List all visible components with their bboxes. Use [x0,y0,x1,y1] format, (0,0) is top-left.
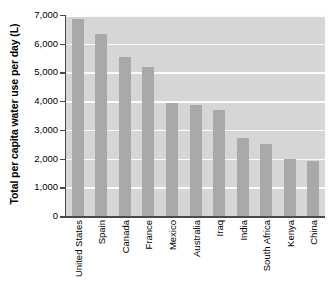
x-label-slot: China [301,218,325,298]
y-axis-tick-label: 1,000 [18,181,58,192]
bar-chart: Total per capita water use per day (L) 0… [0,0,330,298]
bar-slot [278,15,302,216]
x-label-slot: Iraq [207,218,231,298]
x-axis-tick-label: Iraq [214,220,225,236]
bar[interactable] [190,105,202,216]
x-label-slot: United States [66,218,90,298]
bar-slot [113,15,137,216]
x-label-slot: South Africa [254,218,278,298]
x-label-slot: France [137,218,161,298]
bar[interactable] [142,67,154,216]
bar[interactable] [166,103,178,216]
bar[interactable] [213,110,225,216]
y-axis-tick-label: 2,000 [18,153,58,164]
bar[interactable] [95,34,107,216]
y-axis-tick-label: 7,000 [18,9,58,20]
x-axis-tick-label: United States [72,220,83,277]
bar-slot [137,15,161,216]
bar-slot [207,15,231,216]
x-label-slot: Spain [90,218,114,298]
x-label-slot: Kenya [278,218,302,298]
bar[interactable] [307,161,319,216]
bar-slot [231,15,255,216]
y-axis-tick-label: 5,000 [18,66,58,77]
x-label-slot: Mexico [160,218,184,298]
x-axis-tick-label: Mexico [166,220,177,250]
x-label-slot: India [231,218,255,298]
bar[interactable] [284,159,296,216]
bar-slot [301,15,325,216]
y-axis-tick-label: 3,000 [18,124,58,135]
bars-layer [66,15,325,216]
plot-area [66,15,325,216]
x-axis-tick-label: Kenya [284,220,295,247]
bar-slot [160,15,184,216]
x-axis-label-group: United StatesSpainCanadaFranceMexicoAust… [66,218,325,298]
bar[interactable] [119,57,131,216]
bar-slot [184,15,208,216]
y-axis-tick-label: 6,000 [18,38,58,49]
x-axis-tick-label: South Africa [261,220,272,271]
x-axis-tick-label: India [237,220,248,241]
bar[interactable] [237,138,249,216]
bar[interactable] [72,19,84,216]
bar-slot [90,15,114,216]
bar-slot [254,15,278,216]
x-label-slot: Australia [184,218,208,298]
x-axis-tick-label: Australia [190,220,201,257]
y-axis-tick-label: 0 [18,210,58,221]
x-axis-tick-label: Canada [119,220,130,253]
x-axis-tick-label: Spain [96,220,107,244]
y-axis-tick-label: 4,000 [18,95,58,106]
bar[interactable] [260,144,272,216]
bar-slot [66,15,90,216]
x-axis-tick-label: France [143,220,154,250]
x-axis-tick-label: China [308,220,319,245]
x-label-slot: Canada [113,218,137,298]
